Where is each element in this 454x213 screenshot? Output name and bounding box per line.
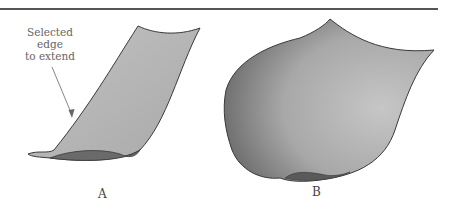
panel-label-a: A [98, 188, 107, 200]
callout-text: Selected edge to extend [20, 26, 80, 62]
callout-arrow [52, 67, 75, 118]
callout-line: to extend [20, 50, 80, 62]
callout-line: Selected [20, 26, 80, 38]
callout-line: edge [20, 38, 80, 50]
surface-b [224, 19, 434, 181]
panel-label-b: B [312, 186, 321, 198]
